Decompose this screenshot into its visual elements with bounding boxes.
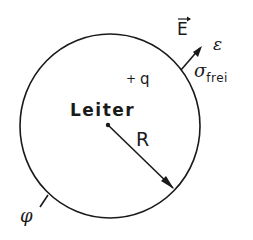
potential-tick [40,195,48,207]
charge-sign: + [126,72,136,86]
surface-charge-label: σfrei [194,62,228,80]
surface-charge-subscript: frei [206,71,228,85]
potential-label: φ [20,207,33,225]
charge-label: +q [126,72,150,87]
permittivity-label: ε [213,36,222,53]
conductor-label: Leiter [70,102,135,119]
radius-label: R [136,130,149,149]
field-label: E [177,21,188,38]
